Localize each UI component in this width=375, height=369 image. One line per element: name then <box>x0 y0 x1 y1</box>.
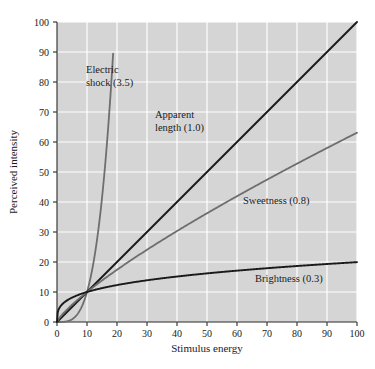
x-tick-label: 20 <box>112 328 122 339</box>
y-tick-label: 10 <box>39 287 49 298</box>
x-tick-label: 80 <box>292 328 302 339</box>
x-tick-label: 10 <box>82 328 92 339</box>
x-axis-title: Stimulus energy <box>171 342 243 354</box>
x-tick-label: 0 <box>55 328 60 339</box>
x-tick-label: 40 <box>172 328 182 339</box>
y-tick-label: 70 <box>39 107 49 118</box>
x-tick-label: 30 <box>142 328 152 339</box>
y-tick-label: 20 <box>39 257 49 268</box>
y-tick-label: 80 <box>39 77 49 88</box>
y-tick-label: 60 <box>39 137 49 148</box>
stevens-power-law-chart: 0102030405060708090100010203040506070809… <box>0 0 375 369</box>
annotation-sweetness: Sweetness (0.8) <box>243 195 310 207</box>
x-tick-label: 60 <box>232 328 242 339</box>
y-tick-label: 30 <box>39 227 49 238</box>
annotation-line: Apparent <box>155 109 194 120</box>
chart-canvas: 0102030405060708090100010203040506070809… <box>0 0 375 369</box>
y-tick-label: 40 <box>39 197 49 208</box>
annotation-line: Electric <box>86 64 119 75</box>
x-tick-label: 70 <box>262 328 272 339</box>
x-tick-label: 90 <box>322 328 332 339</box>
annotation-brightness: Brightness (0.3) <box>255 273 323 285</box>
y-tick-label: 0 <box>44 317 49 328</box>
annotation-line: Sweetness (0.8) <box>243 195 310 207</box>
y-tick-label: 90 <box>39 47 49 58</box>
x-tick-label: 100 <box>350 328 365 339</box>
y-tick-label: 100 <box>34 17 49 28</box>
annotation-line: Brightness (0.3) <box>255 273 323 285</box>
y-axis-title: Perceived intensity <box>7 130 19 215</box>
annotation-line: length (1.0) <box>155 122 204 134</box>
y-tick-label: 50 <box>39 167 49 178</box>
x-tick-label: 50 <box>202 328 212 339</box>
annotation-line: shock (3.5) <box>86 77 134 89</box>
